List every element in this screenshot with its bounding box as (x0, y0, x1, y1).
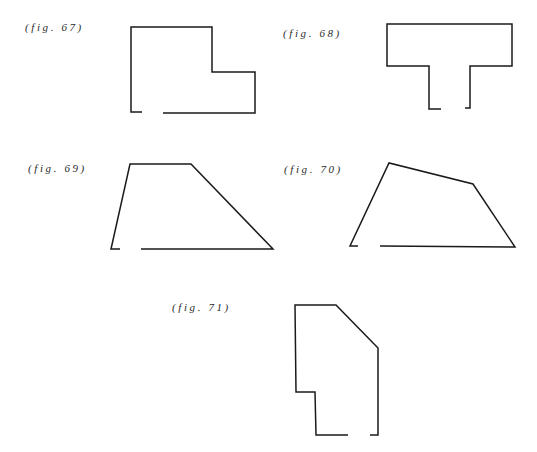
fig-70-outline (350, 163, 515, 247)
fig-69-outline (111, 164, 273, 249)
wall-outline (387, 24, 512, 109)
wall-outline (295, 305, 378, 435)
fig-67-outline (131, 27, 255, 113)
wall-outline (131, 27, 255, 113)
fig-68-outline (387, 24, 512, 109)
wall-outline (350, 163, 515, 247)
wall-outline (111, 164, 273, 249)
figures-canvas (0, 0, 537, 452)
fig-71-outline (295, 305, 378, 435)
